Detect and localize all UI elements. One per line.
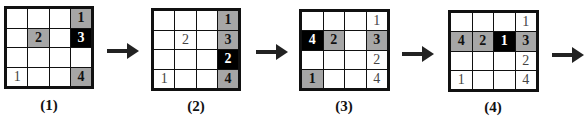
grid-cell: 2 [28, 29, 48, 48]
grid-cell [345, 12, 366, 30]
grid-cell [473, 71, 494, 89]
grid-cell: 4 [451, 32, 472, 50]
arrow-right-icon [402, 44, 434, 64]
grid-cell: 3 [367, 31, 388, 49]
grid-cell [302, 12, 323, 30]
grid-cell [197, 50, 217, 69]
grid-cell [7, 48, 27, 67]
grid-cell [175, 70, 195, 89]
grid-cell: 4 [218, 70, 238, 89]
grid-cell [197, 31, 217, 50]
grid-cell [345, 51, 366, 69]
grid-cell: 1 [7, 68, 27, 87]
grid-cell [50, 9, 70, 28]
grid-cell: 3 [218, 31, 238, 50]
grid-cell [197, 11, 217, 30]
grid-cell: 2 [324, 31, 345, 49]
grid-cell: 1 [218, 11, 238, 30]
grid-cell [71, 48, 91, 67]
grid-panel-1: 12314 [4, 6, 94, 89]
grid-cell: 4 [516, 71, 537, 89]
grid-cell: 1 [451, 71, 472, 89]
grid-cell: 4 [71, 68, 91, 87]
grid-cell [154, 11, 174, 30]
grid-cell [28, 68, 48, 87]
grid-cell [175, 50, 195, 69]
grid-cell [494, 13, 515, 31]
grid-panel-2: 123214 [151, 8, 241, 91]
grid-cell [154, 50, 174, 69]
grid-cell: 3 [516, 32, 537, 50]
grid-cell: 1 [71, 9, 91, 28]
grid-cell: 2 [473, 32, 494, 50]
grid-cell: 2 [516, 52, 537, 70]
grid-cell [345, 31, 366, 49]
grid-cell: 1 [154, 70, 174, 89]
grid-cell [324, 70, 345, 88]
grid-cell: 2 [175, 31, 195, 50]
grid-panel-3: 1423214 [299, 9, 390, 91]
grid-cell [175, 11, 195, 30]
panel-label: (3) [324, 98, 364, 115]
grid-cell [7, 29, 27, 48]
grid-cell [324, 12, 345, 30]
grid-cell [451, 52, 472, 70]
grid-cell: 2 [218, 50, 238, 69]
grid-cell: 4 [367, 70, 388, 88]
grid-cell: 1 [367, 12, 388, 30]
grid-cell: 1 [516, 13, 537, 31]
panel-label: (1) [29, 97, 69, 114]
grid-cell [451, 13, 472, 31]
panel-label: (2) [176, 98, 216, 115]
grid-cell [345, 70, 366, 88]
grid-cell [50, 29, 70, 48]
arrow-right-icon [552, 45, 584, 65]
grid-cell [197, 70, 217, 89]
grid-cell [50, 68, 70, 87]
grid-cell [473, 52, 494, 70]
grid-cell [324, 51, 345, 69]
grid-cell [473, 13, 494, 31]
grid-cell [28, 9, 48, 28]
grid-cell: 4 [302, 31, 323, 49]
grid-cell [494, 71, 515, 89]
arrow-right-icon [256, 42, 288, 62]
grid-cell [154, 31, 174, 50]
grid-cell: 1 [302, 70, 323, 88]
grid-cell [302, 51, 323, 69]
grid-cell [494, 52, 515, 70]
grid-cell [7, 9, 27, 28]
grid-cell: 1 [494, 32, 515, 50]
grid-cell [28, 48, 48, 67]
grid-panel-4: 14213214 [448, 10, 539, 92]
panel-label: (4) [473, 99, 513, 116]
grid-cell: 2 [367, 51, 388, 69]
grid-cell [50, 48, 70, 67]
grid-cell: 3 [71, 29, 91, 48]
arrow-right-icon [107, 41, 139, 61]
